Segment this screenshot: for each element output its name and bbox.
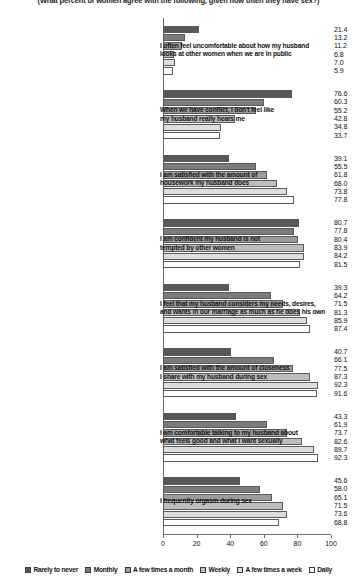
value-label: 58.0 [334, 485, 347, 493]
bar [163, 155, 229, 162]
value-label: 82.6 [334, 438, 347, 446]
value-label: 92.3 [334, 381, 347, 389]
bar [163, 196, 294, 203]
legend-swatch-icon [237, 567, 243, 573]
value-label: 71.5 [334, 502, 347, 510]
bar [163, 26, 199, 33]
bar [163, 261, 300, 268]
value-label: 60.3 [334, 98, 347, 106]
legend-swatch-icon [85, 567, 91, 573]
value-label: 55.2 [334, 107, 347, 115]
x-tick [331, 535, 332, 538]
bar [163, 219, 299, 226]
bar [163, 413, 236, 420]
legend-swatch-icon [25, 567, 31, 573]
bar [163, 421, 267, 428]
value-label: 81.5 [334, 261, 347, 269]
bar [163, 228, 294, 235]
legend-item[interactable]: A few times a month [125, 566, 194, 574]
value-label: 81.3 [334, 309, 347, 317]
value-label: 84.2 [334, 252, 347, 260]
value-label: 33.7 [334, 132, 347, 140]
legend-item[interactable]: Monthly [85, 566, 117, 574]
value-label: 87.4 [334, 325, 347, 333]
bar [163, 132, 220, 139]
chart-container: (What percent of women agree with the fo… [0, 0, 357, 588]
legend-item[interactable]: Daily [309, 566, 332, 574]
value-label: 80.7 [334, 219, 347, 227]
x-tick [297, 535, 298, 538]
bar [163, 284, 229, 291]
value-label: 7.0 [334, 59, 343, 67]
value-label: 80.4 [334, 236, 347, 244]
value-label: 87.3 [334, 373, 347, 381]
x-tick [163, 535, 164, 538]
value-label: 68.8 [334, 519, 347, 527]
bar [163, 292, 271, 299]
value-label: 13.2 [334, 34, 347, 42]
value-label: 64.2 [334, 292, 347, 300]
x-tick-label: 0 [151, 539, 175, 548]
value-label: 39.3 [334, 284, 347, 292]
bar [163, 67, 173, 74]
value-label: 89.7 [334, 446, 347, 454]
value-label: 45.6 [334, 477, 347, 485]
bar [163, 34, 185, 41]
x-tick-label: 80 [285, 539, 309, 548]
value-label: 5.9 [334, 67, 343, 75]
bar [163, 348, 231, 355]
bar [163, 90, 292, 97]
bar [163, 454, 318, 461]
bar [163, 382, 318, 389]
legend-item[interactable]: A few times a week [237, 566, 302, 574]
bar [163, 59, 175, 66]
value-label: 66.1 [334, 356, 347, 364]
bar [163, 511, 287, 518]
bar [163, 253, 304, 260]
bar [163, 519, 279, 526]
legend-item[interactable]: Weekly [200, 566, 230, 574]
bar [163, 446, 314, 453]
value-label: 11.2 [334, 42, 347, 50]
x-tick [197, 535, 198, 538]
x-axis-line [163, 534, 331, 535]
value-label: 85.9 [334, 317, 347, 325]
plot-area [163, 18, 331, 534]
legend-label: A few times a month [133, 566, 193, 574]
bar [163, 188, 287, 195]
value-label: 73.8 [334, 188, 347, 196]
legend-item[interactable]: Rarely to never [25, 566, 78, 574]
value-label: 61.9 [334, 421, 347, 429]
x-tick-label: 40 [218, 539, 242, 548]
value-label: 34.8 [334, 123, 347, 131]
x-tick [230, 535, 231, 538]
value-label: 55.5 [334, 163, 347, 171]
x-tick-label: 20 [185, 539, 209, 548]
bar [163, 317, 307, 324]
bar [163, 477, 240, 484]
legend-label: Monthly [94, 566, 118, 574]
value-label: 6.8 [334, 51, 343, 59]
value-label: 76.6 [334, 90, 347, 98]
value-label: 71.5 [334, 300, 347, 308]
value-label: 77.8 [334, 196, 347, 204]
bar [163, 325, 310, 332]
legend-label: Rarely to never [33, 566, 78, 574]
legend-label: Weekly [209, 566, 230, 574]
bar [163, 357, 274, 364]
bar [163, 390, 317, 397]
legend-label: Daily [317, 566, 332, 574]
value-label: 39.1 [334, 155, 347, 163]
bar [163, 486, 260, 493]
value-label: 61.8 [334, 171, 347, 179]
legend-swatch-icon [200, 567, 206, 573]
value-label: 65.1 [334, 494, 347, 502]
legend-swatch-icon [125, 567, 131, 573]
x-tick-label: 100 [319, 539, 343, 548]
chart-legend: Rarely to neverMonthlyA few times a mont… [0, 566, 357, 574]
value-label: 77.8 [334, 227, 347, 235]
legend-label: A few times a week [245, 566, 301, 574]
x-tick-label: 60 [252, 539, 276, 548]
value-label: 21.4 [334, 26, 347, 34]
bar [163, 99, 264, 106]
